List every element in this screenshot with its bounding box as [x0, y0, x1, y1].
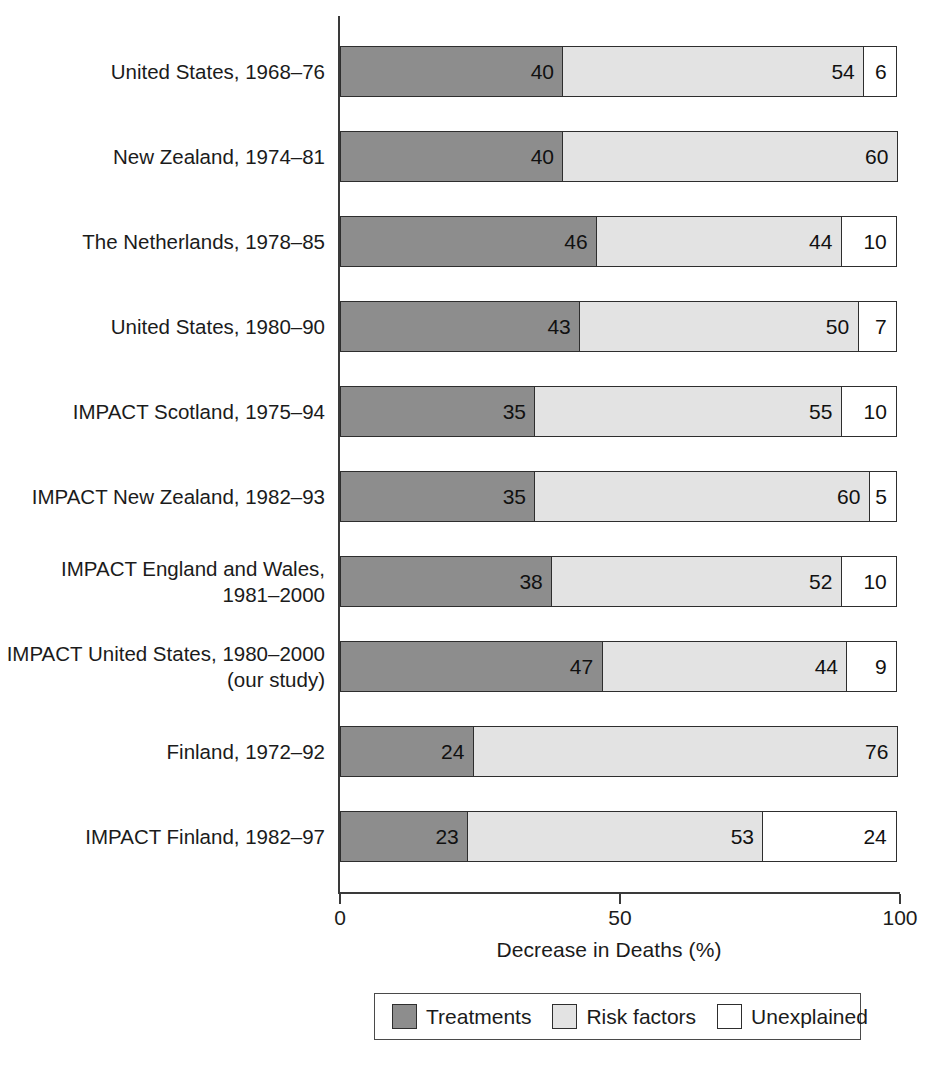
bar-segment-value: 10 — [863, 230, 895, 254]
stacked-bar: 385210 — [340, 556, 900, 607]
stacked-bar: 35605 — [340, 471, 900, 522]
bar-segment-value: 55 — [809, 400, 841, 424]
bar-segment-unexplained: 7 — [858, 301, 897, 352]
plot-area: United States, 1968–7640546New Zealand, … — [0, 0, 940, 940]
bar-segment-risk-factors: 52 — [551, 556, 842, 607]
bar-segment-unexplained: 10 — [841, 216, 897, 267]
bar-segment-risk-factors: 55 — [534, 386, 842, 437]
bar-segment-risk-factors: 60 — [562, 131, 898, 182]
bar-segment-value: 76 — [865, 740, 897, 764]
bar-segment-value: 54 — [831, 60, 863, 84]
bar-segment-unexplained: 10 — [841, 556, 897, 607]
bar-segment-treatments: 47 — [340, 641, 603, 692]
bar-segment-value: 50 — [826, 315, 858, 339]
bar-row-label: The Netherlands, 1978–85 — [0, 229, 325, 255]
bar-segment-value: 46 — [564, 230, 596, 254]
bar-segment-value: 10 — [863, 570, 895, 594]
bar-segment-value: 44 — [815, 655, 847, 679]
stacked-bar: 4060 — [340, 131, 900, 182]
bar-segment-value: 44 — [809, 230, 841, 254]
stacked-bar-chart: United States, 1968–7640546New Zealand, … — [0, 0, 940, 1070]
legend-item-label: Treatments — [426, 1005, 531, 1029]
stacked-bar: 47449 — [340, 641, 900, 692]
bar-segment-value: 24 — [863, 825, 895, 849]
bar-row-label: IMPACT Finland, 1982–97 — [0, 824, 325, 850]
bar-row-label: IMPACT Scotland, 1975–94 — [0, 399, 325, 425]
bar-row-label: IMPACT United States, 1980–2000 (our stu… — [0, 641, 325, 693]
bar-segment-risk-factors: 53 — [467, 811, 764, 862]
x-axis-tick-label: 50 — [608, 906, 631, 930]
bar-segment-unexplained: 10 — [841, 386, 897, 437]
bar-segment-value: 40 — [531, 145, 563, 169]
bar-segment-treatments: 43 — [340, 301, 581, 352]
bar-segment-unexplained: 9 — [846, 641, 896, 692]
bar-segment-risk-factors: 60 — [534, 471, 870, 522]
x-axis-tick — [339, 894, 341, 904]
bar-segment-value: 6 — [875, 60, 896, 84]
legend-item-label: Risk factors — [586, 1005, 696, 1029]
stacked-bar: 235324 — [340, 811, 900, 862]
bar-segment-treatments: 46 — [340, 216, 598, 267]
bar-segment-treatments: 38 — [340, 556, 553, 607]
bar-segment-value: 60 — [865, 145, 897, 169]
bar-segment-value: 9 — [875, 655, 896, 679]
bar-segment-risk-factors: 50 — [579, 301, 859, 352]
bar-row-label: IMPACT New Zealand, 1982–93 — [0, 484, 325, 510]
x-axis-tick-label: 100 — [882, 906, 917, 930]
bar-segment-risk-factors: 44 — [602, 641, 848, 692]
bar-segment-treatments: 23 — [340, 811, 469, 862]
stacked-bar: 40546 — [340, 46, 900, 97]
bar-segment-value: 40 — [531, 60, 563, 84]
bar-segment-unexplained: 5 — [869, 471, 897, 522]
bar-segment-treatments: 40 — [340, 131, 564, 182]
stacked-bar: 355510 — [340, 386, 900, 437]
bar-segment-value: 47 — [570, 655, 602, 679]
bar-row-label: United States, 1980–90 — [0, 314, 325, 340]
legend-item-risk-factors: Risk factors — [552, 1004, 696, 1029]
bar-segment-treatments: 35 — [340, 471, 536, 522]
bar-segment-value: 38 — [519, 570, 551, 594]
x-axis-tick — [619, 894, 621, 904]
stacked-bar: 43507 — [340, 301, 900, 352]
bar-segment-value: 52 — [809, 570, 841, 594]
chart-legend: TreatmentsRisk factorsUnexplained — [374, 993, 861, 1040]
bar-segment-value: 35 — [503, 400, 535, 424]
x-axis-tick — [899, 894, 901, 904]
bar-segment-value: 23 — [435, 825, 467, 849]
bar-segment-risk-factors: 76 — [473, 726, 899, 777]
bar-segment-treatments: 35 — [340, 386, 536, 437]
stacked-bar: 2476 — [340, 726, 900, 777]
legend-item-unexplained: Unexplained — [717, 1004, 868, 1029]
x-axis-title-text: Decrease in Deaths (%) — [496, 938, 721, 962]
bar-segment-treatments: 24 — [340, 726, 474, 777]
bar-segment-value: 53 — [731, 825, 763, 849]
bar-segment-value: 60 — [837, 485, 869, 509]
bar-segment-value: 5 — [875, 485, 896, 509]
x-axis-title: Decrease in Deaths (%) — [0, 938, 940, 962]
legend-swatch-icon — [392, 1004, 417, 1029]
legend-swatch-icon — [717, 1004, 742, 1029]
bar-segment-risk-factors: 44 — [596, 216, 842, 267]
bar-row-label: United States, 1968–76 — [0, 59, 325, 85]
bar-segment-value: 43 — [547, 315, 579, 339]
bar-segment-risk-factors: 54 — [562, 46, 864, 97]
bar-segment-unexplained: 6 — [863, 46, 897, 97]
bar-segment-unexplained: 24 — [762, 811, 896, 862]
legend-item-treatments: Treatments — [392, 1004, 531, 1029]
bar-segment-value: 7 — [875, 315, 896, 339]
bar-row-label: Finland, 1972–92 — [0, 739, 325, 765]
bar-segment-value: 10 — [863, 400, 895, 424]
legend-item-label: Unexplained — [751, 1005, 868, 1029]
legend-swatch-icon — [552, 1004, 577, 1029]
bar-row-label: New Zealand, 1974–81 — [0, 144, 325, 170]
bar-row-label: IMPACT England and Wales, 1981–2000 — [0, 556, 325, 608]
x-axis-tick-label: 0 — [334, 906, 346, 930]
stacked-bar: 464410 — [340, 216, 900, 267]
bar-segment-value: 24 — [441, 740, 473, 764]
bar-segment-value: 35 — [503, 485, 535, 509]
bar-segment-treatments: 40 — [340, 46, 564, 97]
